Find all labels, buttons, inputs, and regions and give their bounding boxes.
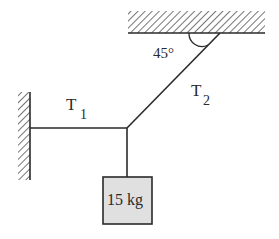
label-t1-subscript: 1	[80, 107, 87, 123]
diagram-canvas: 45° T 1 T 2 15 kg	[0, 0, 279, 239]
left-wall	[18, 92, 30, 180]
mass-label: 15 kg	[107, 191, 143, 209]
label-t2-main: T	[191, 81, 201, 100]
label-t2: T	[191, 81, 201, 101]
angle-label: 45°	[153, 45, 174, 62]
label-t1: T	[66, 95, 76, 115]
label-t2-subscript: 2	[203, 93, 210, 109]
label-t1-main: T	[66, 95, 76, 114]
ceiling	[128, 11, 265, 33]
angle-arc	[189, 33, 208, 46]
